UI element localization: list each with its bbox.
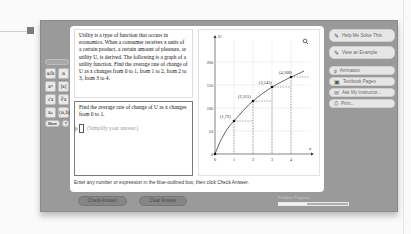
screenshot-stage: a/b a b/c xⁿ |x| √x ∛x xₙ (a,b) More ? U…: [0, 0, 411, 234]
svg-text:50: 50: [209, 129, 213, 134]
help-me-solve-button[interactable]: ✎ Help Me Solve This: [329, 29, 395, 42]
svg-text:(1,72): (1,72): [220, 114, 231, 120]
grid-lines: [215, 40, 311, 154]
background-artifacts: [0, 0, 40, 80]
mixed-number-button[interactable]: a b/c: [58, 68, 69, 79]
svg-text:x: x: [308, 146, 312, 151]
view-example-button[interactable]: ✎ View an Example: [329, 46, 395, 59]
page-edge-rule: [403, 0, 404, 234]
problem-progress-bar: [278, 202, 349, 206]
progress-label: Problem Progress: [278, 195, 310, 200]
svg-text:150: 150: [207, 83, 213, 88]
utility-graph: U x 0 50 100 150 200 0 1 2 3: [198, 29, 320, 176]
pointer-arrow-icon: [75, 126, 78, 132]
print-label: Print...: [341, 101, 354, 106]
simplify-hint: (Simplify your answer.): [87, 125, 138, 132]
animation-label: Animation: [340, 68, 360, 73]
fraction-button[interactable]: a/b: [45, 68, 56, 79]
y-axis-arrow-icon: [214, 35, 217, 38]
magnify-icon: [303, 39, 308, 44]
question-panel: Utility is a type of function that occur…: [70, 26, 324, 192]
utility-chart: U x 0 50 100 150 200 0 1 2 3: [199, 30, 321, 177]
printer-icon: ⎙: [334, 100, 338, 107]
svg-text:1: 1: [233, 157, 235, 162]
absolute-value-button[interactable]: |x|: [58, 81, 69, 92]
textbook-pages-button[interactable]: ▣ Textbook Pages: [329, 77, 395, 86]
divider: [0, 31, 30, 32]
nth-root-button[interactable]: ∛x: [58, 94, 69, 105]
exponent-button[interactable]: xⁿ: [45, 81, 56, 92]
progress-fill: [279, 203, 307, 205]
print-button[interactable]: ⎙ Print...: [329, 99, 395, 108]
svg-text:100: 100: [207, 106, 213, 111]
svg-text:200: 200: [207, 60, 213, 65]
answer-input[interactable]: [79, 124, 84, 133]
svg-text:0: 0: [211, 152, 213, 157]
svg-text:2: 2: [252, 157, 254, 162]
math-toolbox: a/b a b/c xⁿ |x| √x ∛x xₙ (a,b) More ?: [43, 59, 71, 129]
svg-text:3: 3: [271, 157, 273, 162]
mail-icon: ✉: [334, 90, 339, 96]
bottom-bar: Check Answer Clear Answer Problem Progre…: [70, 195, 395, 209]
problem-statement: Utility is a type of function that occur…: [74, 29, 193, 98]
subscript-button[interactable]: xₙ: [45, 107, 56, 118]
ordered-pair-button[interactable]: (a,b): [58, 107, 69, 118]
ask-instructor-button[interactable]: ✉ Ask My Instructor...: [329, 88, 395, 97]
pencil-icon: ✎: [334, 50, 339, 56]
question-prompt: Find the average rate of change of U as …: [79, 104, 188, 118]
check-answer-button[interactable]: Check Answer: [78, 196, 127, 206]
help-sidebar: ✎ Help Me Solve This ✎ View an Example ♯…: [329, 29, 395, 110]
svg-text:0: 0: [214, 157, 216, 162]
help-me-solve-label: Help Me Solve This: [342, 33, 382, 38]
exercise-window: a/b a b/c xⁿ |x| √x ∛x xₙ (a,b) More ? U…: [40, 20, 398, 212]
svg-text:U: U: [218, 34, 222, 39]
clear-answer-button[interactable]: Clear Answer: [139, 196, 187, 206]
view-example-label: View an Example: [342, 50, 377, 55]
toolbox-header: [45, 59, 69, 65]
film-icon: ♯: [334, 68, 337, 74]
more-tools-button[interactable]: More: [45, 120, 60, 127]
answer-area: Find the average rate of change of U as …: [74, 101, 193, 176]
textbook-pages-label: Textbook Pages: [343, 79, 376, 84]
svg-text:(2,115): (2,115): [238, 94, 251, 100]
svg-text:4: 4: [290, 157, 293, 162]
animation-button[interactable]: ♯ Animation: [329, 66, 395, 75]
sqrt-button[interactable]: √x: [45, 94, 56, 105]
pencil-icon: ✎: [334, 33, 339, 39]
svg-text:(4,168): (4,168): [279, 70, 292, 76]
status-instructions: Enter any number or expression in the bl…: [74, 180, 249, 185]
corner-square: [27, 27, 34, 34]
ask-instructor-label: Ask My Instructor...: [342, 90, 381, 95]
toolbox-help-button[interactable]: ?: [62, 120, 69, 127]
book-icon: ▣: [334, 79, 340, 85]
x-axis-arrow-icon: [311, 153, 314, 156]
